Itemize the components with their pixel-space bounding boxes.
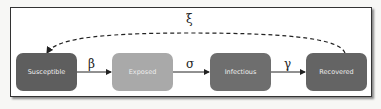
node-susceptible: Susceptible	[16, 53, 77, 91]
rate-xi: ξ	[186, 12, 193, 26]
rate-sigma: σ	[186, 57, 194, 71]
rate-gamma: γ	[284, 57, 291, 71]
rate-beta: β	[88, 57, 95, 71]
node-label: Exposed	[129, 68, 157, 76]
node-label: Recovered	[319, 68, 353, 76]
node-label: Susceptible	[28, 68, 66, 76]
node-recovered: Recovered	[306, 53, 367, 91]
node-label: Infectious	[225, 68, 257, 76]
edge-r-s-dashed-arrow	[47, 33, 345, 53]
node-infectious: Infectious	[210, 53, 271, 91]
node-exposed: Exposed	[112, 53, 173, 91]
